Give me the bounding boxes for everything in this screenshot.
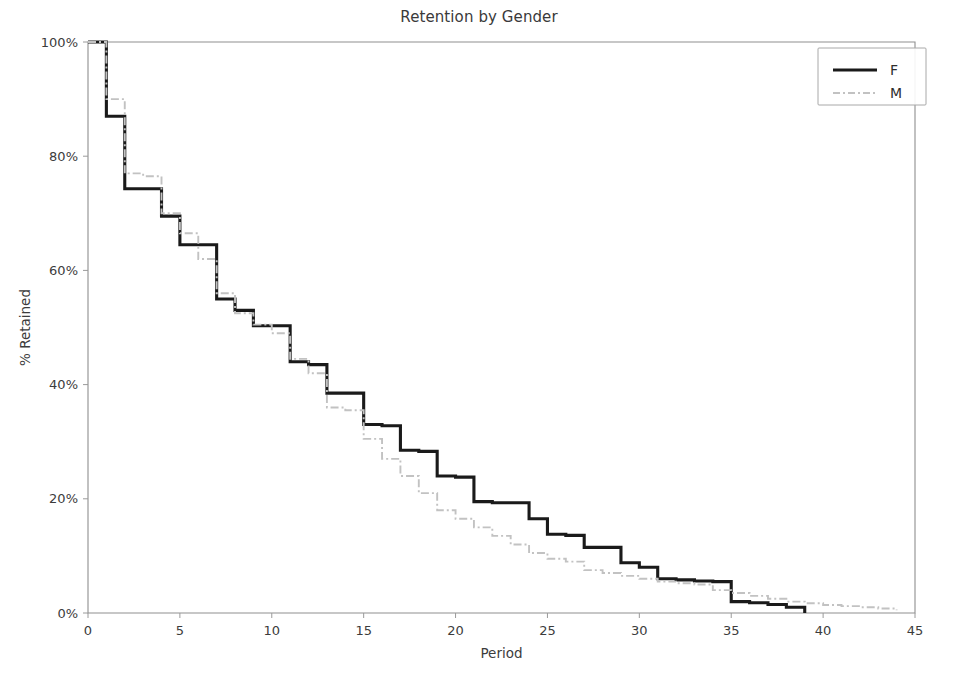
series-line-f (88, 42, 805, 613)
x-tick-label: 15 (355, 623, 372, 638)
retention-chart-plot: 051015202530354045 0%20%40%60%80%100% Pe… (0, 0, 958, 677)
x-tick-label: 20 (447, 623, 464, 638)
x-tick-label: 25 (539, 623, 556, 638)
axes-spines (88, 42, 915, 613)
y-axis-ticks: 0%20%40%60%80%100% (41, 35, 88, 621)
y-tick-label: 60% (49, 263, 78, 278)
y-tick-label: 20% (49, 491, 78, 506)
figure-canvas: Retention by Gender 051015202530354045 0… (0, 0, 958, 677)
x-axis-title: Period (480, 645, 522, 661)
x-tick-label: 30 (631, 623, 648, 638)
legend-label-f: F (890, 62, 898, 78)
x-tick-label: 45 (907, 623, 924, 638)
y-tick-label: 100% (41, 35, 78, 50)
x-tick-label: 0 (84, 623, 92, 638)
legend-box (818, 48, 926, 105)
x-axis-ticks: 051015202530354045 (84, 613, 923, 638)
y-tick-label: 80% (49, 149, 78, 164)
legend-label-m: M (890, 85, 902, 101)
x-tick-label: 35 (723, 623, 740, 638)
x-tick-label: 10 (264, 623, 281, 638)
y-tick-label: 40% (49, 377, 78, 392)
y-axis-title: % Retained (17, 289, 33, 366)
series-line-m (88, 42, 897, 610)
y-tick-label: 0% (57, 606, 78, 621)
x-tick-label: 40 (815, 623, 832, 638)
x-tick-label: 5 (176, 623, 184, 638)
chart-legend[interactable]: F M (818, 48, 926, 105)
data-series-group (88, 42, 897, 613)
